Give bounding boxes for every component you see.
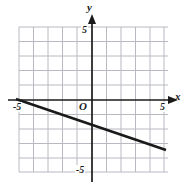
x-axis-title: x bbox=[175, 91, 181, 102]
coordinate-plane-figure: y x O 5 -5 5 -5 bbox=[0, 0, 187, 182]
y-axis-tick-5: 5 bbox=[81, 25, 88, 35]
y-axis-title: y bbox=[87, 2, 92, 13]
y-axis-arrow-icon bbox=[88, 14, 96, 24]
graph-canvas bbox=[0, 0, 187, 182]
y-axis-tick-neg5: -5 bbox=[75, 165, 85, 175]
plotted-line bbox=[16, 99, 166, 150]
x-axis-tick-5: 5 bbox=[159, 102, 166, 112]
x-axis-tick-neg5: -5 bbox=[12, 102, 22, 112]
origin-label: O bbox=[79, 101, 87, 112]
